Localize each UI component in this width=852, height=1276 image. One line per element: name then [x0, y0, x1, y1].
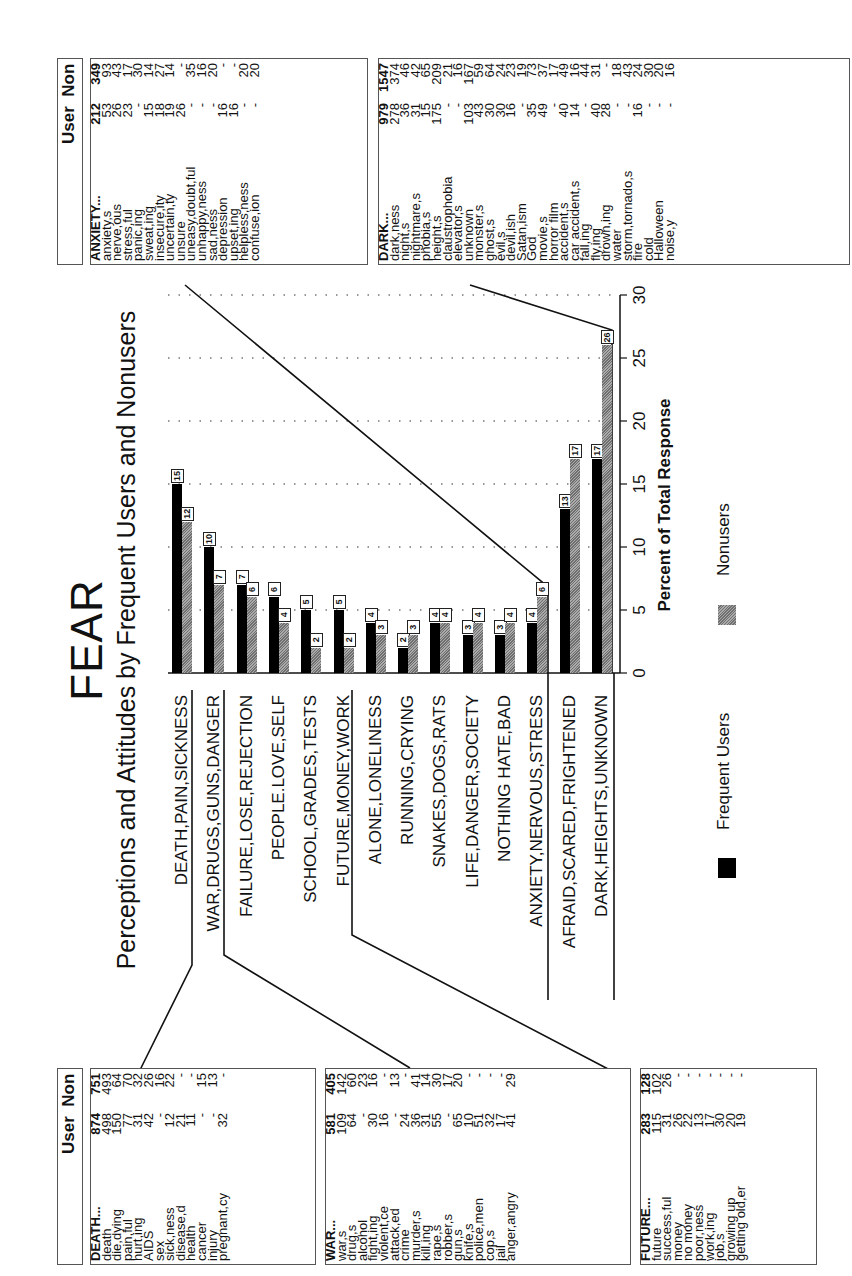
category-label: RUNNING,CRYING	[398, 695, 418, 1000]
category-label: ANXIETY,NERVOUS,STRESS	[527, 695, 547, 1000]
table-row: getting old,er19-	[736, 1069, 747, 1264]
value-label: 17	[569, 444, 582, 458]
table-war: WAR...581405war,s109142drug,s6460alcohol…	[325, 1068, 631, 1265]
category-label: FAILURE,LOSE,REJECTION	[237, 695, 257, 1000]
value-label: 10	[203, 532, 216, 546]
user-count-cell: 41	[506, 1113, 517, 1147]
bar-nonusers	[311, 648, 321, 673]
legend-users-label: Frequent Users	[714, 713, 734, 830]
bar-frequent-users	[430, 623, 440, 673]
user-count-cell: 26	[176, 103, 187, 137]
bar-frequent-users	[592, 459, 602, 673]
user-count-cell: 28	[601, 103, 612, 137]
value-label: 3	[375, 620, 388, 634]
category-label: AFRAID,SCARED,FRIGHTENED	[560, 695, 580, 1000]
user-count-cell: -	[239, 103, 250, 137]
table-anxiety: ANXIETY...212349anxiety,s5393nerve,ous26…	[90, 58, 368, 265]
tick-label: 5	[630, 590, 650, 630]
category-label: NOTHING HATE,BAD	[495, 695, 515, 1000]
chart-title: FEAR	[62, 440, 112, 840]
bar-nonusers	[376, 635, 386, 673]
col-user: User	[58, 106, 80, 144]
bar-nonusers	[247, 597, 257, 673]
user-count-cell: 23	[123, 103, 134, 137]
category-label: LIFE,DANGER,SOCIETY	[463, 695, 483, 1000]
bar-nonusers	[440, 623, 450, 673]
user-count-cell: 64	[347, 1113, 358, 1147]
user-count-cell: 16	[506, 103, 517, 137]
legend-users-swatch	[718, 858, 736, 878]
value-label: 3	[407, 620, 420, 634]
user-count-cell: 19	[736, 1113, 747, 1147]
user-count-cell: 14	[570, 103, 581, 137]
tick-label: 25	[630, 338, 650, 378]
value-label: 7	[213, 570, 226, 584]
user-count-cell: 11	[186, 1113, 197, 1147]
value-label: 4	[504, 608, 517, 622]
category-label: WAR,DRUGS,GUNS,DANGER	[204, 695, 224, 1000]
user-count-cell: 16	[379, 1113, 390, 1147]
table-dark: DARK...9791547dark,ness278374night,s3646…	[378, 58, 850, 265]
table-row: noise,y-16	[665, 59, 676, 264]
bar-nonusers	[182, 522, 192, 673]
table-death: DEATH...874751death498493die,dying15064p…	[90, 1068, 316, 1265]
category-label: DARK,HEIGHTS,UNKNOWN	[592, 695, 612, 1000]
term-cell: confuse,ion	[250, 137, 261, 264]
value-label: 5	[333, 595, 346, 609]
table-row: fire1624	[633, 59, 644, 264]
legend-non-label: Nonusers	[714, 503, 734, 576]
value-label: 2	[310, 633, 323, 647]
value-label: 6	[268, 582, 281, 596]
non-count-cell: 16	[665, 59, 676, 103]
bar-frequent-users	[495, 635, 505, 673]
table-row: anger,angry4129	[506, 1069, 517, 1264]
bar-nonusers	[537, 597, 547, 673]
bar-nonusers	[279, 623, 289, 673]
user-count-cell: -	[197, 103, 208, 137]
user-count-cell: -	[250, 103, 261, 137]
bar-frequent-users	[204, 547, 214, 673]
bar-frequent-users	[560, 509, 570, 673]
user-count-cell: -	[612, 103, 623, 137]
chart-subtitle: Perceptions and Attitudes by Frequent Us…	[112, 280, 141, 1000]
tick-label: 20	[630, 401, 650, 441]
user-count-cell: 55	[432, 1113, 443, 1147]
bar-frequent-users	[237, 585, 247, 673]
category-label: DEATH,PAIN,SICKNESS	[172, 695, 192, 1000]
bar-frequent-users	[398, 648, 408, 673]
value-label: 4	[439, 608, 452, 622]
user-count-cell: -	[443, 103, 454, 137]
table-future: FUTURE...283128future115102success,ful31…	[640, 1068, 817, 1265]
user-count-cell: 16	[633, 103, 644, 137]
bar-frequent-users	[527, 623, 537, 673]
term-cell: anger,angry	[506, 1147, 517, 1264]
bar-nonusers	[505, 623, 515, 673]
col-user: User	[58, 1116, 80, 1154]
table-row: AIDS4226	[144, 1069, 155, 1264]
value-label: 26	[601, 330, 614, 344]
bar-nonusers	[214, 585, 224, 673]
bar-nonusers	[408, 635, 418, 673]
user-count-cell: -	[186, 103, 197, 137]
non-count-cell: -	[736, 1069, 747, 1113]
term-cell: getting old,er	[736, 1147, 747, 1264]
bar-frequent-users	[463, 635, 473, 673]
tick-label: 30	[630, 275, 650, 315]
user-count-cell: 175	[432, 103, 443, 137]
chart-canvas: FEAR Perceptions and Attitudes by Freque…	[0, 0, 852, 1276]
user-count-cell: -	[197, 1113, 208, 1147]
table-row: Satan,ism-19	[517, 59, 528, 264]
table-row: pregnant,cy32-	[218, 1069, 229, 1264]
user-count-cell: -	[644, 103, 655, 137]
category-label: SCHOOL,GRADES,TESTS	[301, 695, 321, 1000]
value-label: 4	[278, 608, 291, 622]
category-label: ALONE,LONELINESS	[366, 695, 386, 1000]
tick-label: 0	[630, 653, 650, 693]
table-row: confuse,ion-20	[250, 59, 261, 264]
col-non: Non	[58, 64, 80, 97]
bar-nonusers	[602, 345, 612, 673]
table-row: storm,tornado,s-43	[623, 59, 634, 264]
legend-non-swatch	[718, 605, 736, 625]
non-count-cell: 20	[250, 59, 261, 103]
value-label: 6	[536, 582, 549, 596]
